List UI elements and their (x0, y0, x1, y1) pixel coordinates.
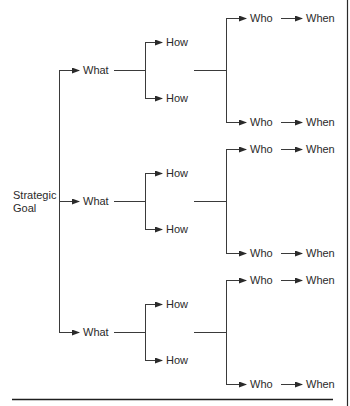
when-node-1b: When (306, 116, 335, 129)
what-node-1: What (83, 64, 109, 77)
when-node-1a: When (306, 12, 335, 25)
who-node-3a: Who (250, 274, 273, 287)
how-node-1a: How (166, 36, 188, 49)
root-label-line2: Goal (13, 202, 56, 215)
what-node-2: What (83, 195, 109, 208)
when-node-2a: When (306, 143, 335, 156)
how-node-3b: How (166, 354, 188, 367)
how-node-3a: How (166, 298, 188, 311)
when-node-2b: When (306, 247, 335, 260)
root-node-strategic-goal: Strategic Goal (13, 189, 56, 215)
how-node-2b: How (166, 223, 188, 236)
how-node-2a: How (166, 167, 188, 180)
when-node-3a: When (306, 274, 335, 287)
strategic-goal-tree-diagram: Strategic Goal What How How Who When Who… (0, 0, 350, 406)
what-node-3: What (83, 326, 109, 339)
who-node-1b: Who (250, 116, 273, 129)
who-node-3b: Who (250, 378, 273, 391)
who-node-2b: Who (250, 247, 273, 260)
who-node-1a: Who (250, 12, 273, 25)
who-node-2a: Who (250, 143, 273, 156)
how-node-1b: How (166, 92, 188, 105)
when-node-3b: When (306, 378, 335, 391)
root-label-line1: Strategic (13, 189, 56, 202)
